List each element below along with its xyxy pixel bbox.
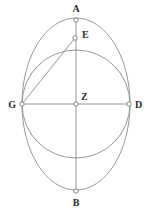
- point-label-d: D: [135, 99, 142, 110]
- point-label-a: A: [72, 3, 80, 14]
- point-marker-d: [127, 102, 131, 106]
- point-label-e: E: [82, 29, 89, 40]
- geometry-figure: A E Z G D B: [0, 0, 153, 216]
- point-marker-e: [73, 36, 77, 40]
- point-marker-b: [74, 189, 78, 193]
- point-marker-z: [74, 102, 78, 106]
- point-marker-a: [74, 18, 78, 22]
- figure-canvas: A E Z G D B: [0, 0, 153, 216]
- point-label-z: Z: [81, 91, 88, 102]
- point-label-g: G: [8, 99, 16, 110]
- point-label-b: B: [73, 197, 80, 208]
- point-marker-g: [20, 102, 24, 106]
